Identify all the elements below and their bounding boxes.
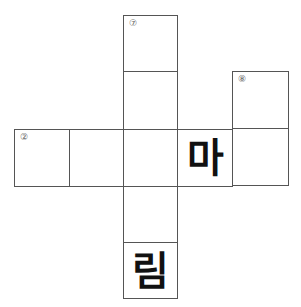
cell-letter-rim: 림 xyxy=(124,243,177,298)
cell-8-1[interactable]: ⑧ xyxy=(232,71,289,129)
cell-letter xyxy=(233,72,288,128)
cell-letter xyxy=(124,130,177,186)
cell-letter xyxy=(124,72,177,129)
cell-letter-ma: 마 xyxy=(178,130,232,186)
cell-2-4[interactable]: 마 xyxy=(177,129,233,187)
cell-7-1[interactable]: ⑦ xyxy=(123,15,178,72)
cell-2-1[interactable]: ② xyxy=(14,129,70,187)
cell-letter xyxy=(233,129,288,185)
cell-letter xyxy=(70,130,123,186)
cell-letter xyxy=(124,16,177,71)
cell-7-5[interactable]: 림 xyxy=(123,242,178,299)
cell-letter xyxy=(124,187,177,242)
cell-2-5[interactable] xyxy=(232,128,289,186)
cell-7-4[interactable] xyxy=(123,186,178,243)
crossword-grid: ⑦ ⑧ ② 마 림 xyxy=(0,0,301,307)
cell-2-3[interactable] xyxy=(123,129,178,187)
cell-7-2[interactable] xyxy=(123,71,178,130)
cell-letter xyxy=(15,130,69,186)
cell-2-2[interactable] xyxy=(69,129,124,187)
